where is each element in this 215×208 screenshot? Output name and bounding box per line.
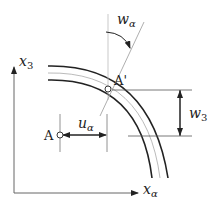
point-a-icon (57, 132, 63, 138)
point-a-displaced-icon (105, 86, 111, 92)
displacement-diagram: x3 xα A' A wα w3 uα (0, 0, 215, 208)
shell-mid-surface (48, 73, 160, 178)
x-alpha-axis-label: xα (143, 181, 158, 199)
rotation-arrow-icon (106, 32, 130, 48)
point-a-displaced-label: A' (113, 73, 127, 88)
point-a-label: A (43, 128, 54, 143)
x3-axis-label: x3 (19, 53, 33, 71)
shell-inner-surface (48, 80, 152, 178)
u-alpha-label: uα (78, 115, 94, 133)
w-alpha-label: wα (117, 11, 136, 29)
w3-label: w3 (189, 105, 207, 123)
